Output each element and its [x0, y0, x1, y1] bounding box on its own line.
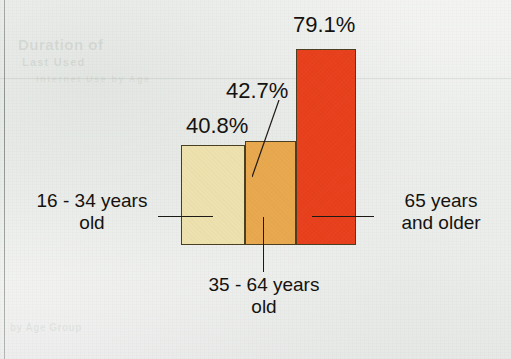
value-label-40-8-percent: 40.8% — [186, 113, 248, 139]
category-label-line1: 16 - 34 years — [37, 190, 148, 211]
category-label-line1: 35 - 64 years — [209, 274, 320, 295]
chart-page: Duration of Last Used Internet Use by Ag… — [0, 0, 511, 359]
bar-16-34-years-old — [181, 145, 245, 245]
value-label-42-7-percent: 42.7% — [226, 78, 288, 104]
bar-texture — [297, 50, 355, 244]
bar-35-64-years-old — [245, 141, 296, 245]
bar-texture — [182, 146, 244, 244]
value-label-79-1-percent: 79.1% — [293, 12, 355, 38]
category-label-line2: and older — [401, 212, 480, 233]
bar-chart-plot-area: 40.8% 42.7% 79.1% 16 - 34 years old 35 -… — [0, 0, 511, 359]
category-label-16-34-years-old: 16 - 34 years old — [18, 190, 166, 234]
bar-65-years-and-older — [296, 49, 356, 245]
bar-texture — [246, 142, 295, 244]
category-label-line1: 65 years — [405, 190, 478, 211]
category-label-35-64-years-old: 35 - 64 years old — [189, 274, 339, 318]
category-label-line2: old — [251, 296, 276, 317]
category-label-line2: old — [79, 212, 104, 233]
category-label-65-years-and-older: 65 years and older — [379, 190, 503, 234]
